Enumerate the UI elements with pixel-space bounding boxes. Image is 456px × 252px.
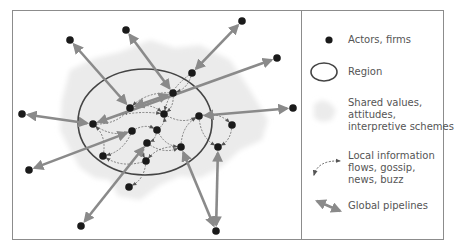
legend-shared-label-1: Shared values, bbox=[348, 97, 422, 109]
legend-flows-label-2: flows, gossip, bbox=[348, 162, 415, 174]
legend-flows-label-1: Local information bbox=[348, 150, 435, 162]
actor-node bbox=[238, 17, 246, 25]
legend-pipeline-icon bbox=[317, 201, 340, 211]
actor-node bbox=[177, 143, 185, 151]
actor-node bbox=[214, 143, 222, 151]
legend-flow-icon bbox=[314, 161, 340, 175]
actor-node bbox=[169, 89, 177, 97]
actor-node bbox=[273, 54, 281, 62]
actor-node bbox=[153, 126, 161, 134]
actor-node bbox=[195, 112, 203, 120]
legend-shared-label-2: attitudes, bbox=[348, 109, 396, 121]
legend-graphics bbox=[311, 36, 340, 211]
actor-node bbox=[143, 139, 151, 147]
diagram-figure: Actors, firms Region Shared values, atti… bbox=[0, 0, 456, 252]
actor-node bbox=[128, 127, 136, 135]
actor-node bbox=[99, 152, 107, 160]
legend-pipelines-label: Global pipelines bbox=[348, 200, 428, 212]
legend-region-icon bbox=[311, 63, 337, 81]
actor-node bbox=[160, 110, 168, 118]
actor-node bbox=[212, 227, 220, 235]
actor-node bbox=[188, 69, 196, 77]
legend-actors-label: Actors, firms bbox=[348, 34, 411, 46]
actor-node bbox=[25, 166, 33, 174]
actor-node bbox=[122, 26, 130, 34]
legend-shared-values-icon bbox=[314, 100, 336, 122]
actor-node bbox=[228, 121, 236, 129]
actor-node bbox=[18, 110, 26, 118]
actor-node bbox=[77, 222, 85, 230]
actor-node bbox=[66, 36, 74, 44]
legend-shared-label-3: interpretive schemes bbox=[348, 121, 454, 133]
actor-node bbox=[125, 183, 133, 191]
actor-node bbox=[126, 104, 134, 112]
actor-node bbox=[142, 157, 150, 165]
legend-actor-icon bbox=[325, 36, 332, 43]
legend-region-label: Region bbox=[348, 66, 382, 78]
legend-flows-label-3: news, buzz bbox=[348, 174, 403, 186]
actor-node bbox=[289, 104, 297, 112]
global-pipeline-arrow bbox=[216, 153, 218, 225]
actor-node bbox=[89, 120, 97, 128]
